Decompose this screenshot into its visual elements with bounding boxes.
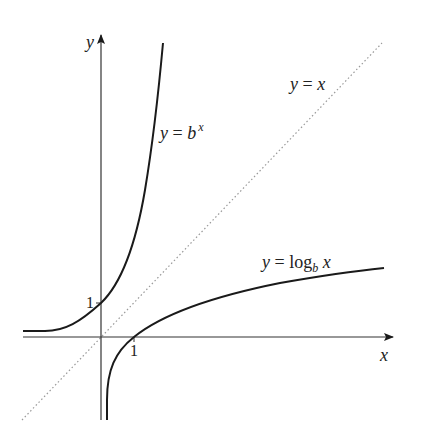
log-fn: log xyxy=(289,252,312,272)
log-curve-label: y = logb x xyxy=(262,253,331,274)
log-eq: = xyxy=(270,252,289,272)
identity-eq: = xyxy=(298,74,317,94)
exp-curve-label: y = bx xyxy=(160,121,203,142)
log-arg: x xyxy=(318,252,331,272)
exp-curve xyxy=(23,43,163,331)
x-tick-one-label: 1 xyxy=(130,343,138,359)
identity-line-label: y = x xyxy=(290,75,325,93)
identity-line xyxy=(22,43,382,420)
graph-canvas xyxy=(0,0,421,440)
identity-lhs: y xyxy=(290,74,298,94)
log-lhs: y xyxy=(262,252,270,272)
exp-eq: = xyxy=(168,123,187,143)
exp-exponent: x xyxy=(198,120,203,134)
y-tick-one-label: 1 xyxy=(86,295,94,311)
y-axis-label: y xyxy=(86,33,94,51)
x-axis-label: x xyxy=(380,346,388,364)
graph-figure: y x 1 1 y = bx y = x y = logb x xyxy=(0,0,421,440)
exp-base: b xyxy=(187,123,196,143)
exp-lhs: y xyxy=(160,123,168,143)
identity-rhs: x xyxy=(317,74,325,94)
log-curve xyxy=(107,268,384,420)
